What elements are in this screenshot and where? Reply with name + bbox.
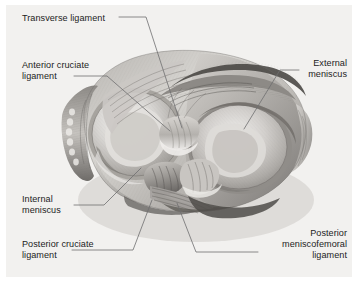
label-internal-meniscus: Internal meniscus xyxy=(22,194,142,216)
label-transverse-ligament: Transverse ligament xyxy=(22,13,105,24)
anatomy-figure: Transverse ligament Anterior cruciate li… xyxy=(0,0,360,283)
label-posterior-cruciate-ligament: Posterior cruciate ligament xyxy=(22,239,152,261)
label-external-meniscus: External meniscus xyxy=(227,58,347,80)
label-anterior-cruciate-ligament: Anterior cruciate ligament xyxy=(22,60,142,82)
label-posterior-meniscofemoral-ligament: Posterior meniscofemoral ligament xyxy=(217,228,347,261)
